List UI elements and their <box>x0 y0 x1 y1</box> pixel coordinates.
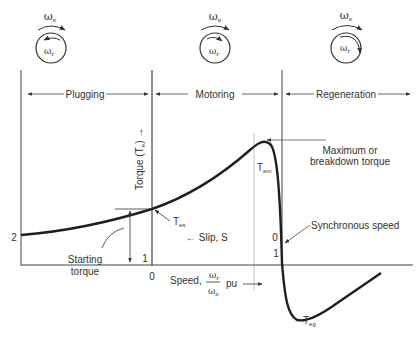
tem-label: Tem <box>257 162 271 174</box>
region-motoring: Motoring <box>156 89 278 100</box>
speed-tick-0: 0 <box>149 271 155 282</box>
svg-text:Starting: Starting <box>68 254 102 265</box>
slip-tick-1: 1 <box>142 253 148 264</box>
svg-text:Tem: Tem <box>257 162 271 174</box>
svg-text:torque: torque <box>71 266 100 277</box>
tes-label: Tes <box>155 210 185 228</box>
svg-text:← Slip, S: ← Slip, S <box>186 232 228 243</box>
speed-tick-1: 1 <box>273 248 279 259</box>
slip-tick-2: 2 <box>11 232 17 243</box>
svg-text:Regeneration: Regeneration <box>316 89 376 100</box>
svg-text:ωr: ωr <box>340 43 350 54</box>
stator-rotation-arrow-icon <box>38 26 65 30</box>
region-regeneration: Regeneration <box>286 89 410 100</box>
stator-rotation-arrow-icon <box>332 26 362 31</box>
speed-axis-label: Speed, ωr ωe pu <box>170 270 262 297</box>
slip-tick-0: 0 <box>272 232 278 243</box>
slip-axis-label: ← Slip, S <box>186 232 228 243</box>
svg-text:Torque (Te) →: Torque (Te) → <box>134 128 146 190</box>
svg-text:Plugging: Plugging <box>66 89 105 100</box>
rotation-diagram-regeneration: ωe ωr <box>331 9 362 63</box>
region-plugging: Plugging <box>28 89 148 100</box>
svg-text:Speed,: Speed, <box>170 275 202 286</box>
svg-text:breakdown torque: breakdown torque <box>310 156 390 167</box>
svg-text:ωe: ωe <box>208 286 219 297</box>
svg-text:ωr: ωr <box>209 46 219 57</box>
rotor-rotation-arrow-icon <box>207 37 222 41</box>
starting-torque-marker: Starting torque <box>68 209 152 277</box>
svg-text:ωe: ωe <box>340 9 353 22</box>
svg-text:ωe: ωe <box>209 10 222 23</box>
rotation-diagram-plugging: ωe ωr <box>36 10 66 63</box>
svg-text:ωr: ωr <box>209 270 219 281</box>
svg-text:Synchronous speed: Synchronous speed <box>311 220 399 231</box>
svg-text:Tes: Tes <box>173 216 185 228</box>
svg-text:Motoring: Motoring <box>196 89 235 100</box>
rotation-diagram-motoring: ωe ωr <box>200 10 230 63</box>
torque-speed-diagram: ωe ωr ωe ωr ωe ωr Plugging Motoring Rege… <box>0 0 417 351</box>
rotor-rotation-arrow-icon <box>44 38 60 40</box>
svg-text:ωe: ωe <box>44 10 57 23</box>
synchronous-speed-annotation: Synchronous speed <box>285 220 399 243</box>
stator-rotation-arrow-icon <box>201 26 229 30</box>
svg-text:pu: pu <box>226 278 237 289</box>
svg-text:Maximum or: Maximum or <box>322 145 378 156</box>
torque-axis-label: Torque (Te) → <box>134 128 146 190</box>
svg-text:ωr: ωr <box>44 46 54 57</box>
breakdown-torque-annotation: Maximum or breakdown torque <box>267 140 390 167</box>
